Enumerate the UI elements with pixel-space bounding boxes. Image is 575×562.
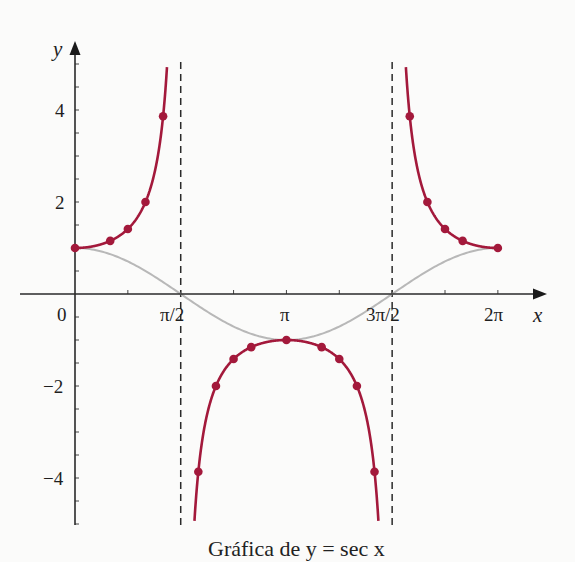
x-tick-label-pi: π [280,304,290,325]
x-axis-label: x [532,303,543,327]
x-tick-label-2pi: 2π [484,304,504,325]
data-point [441,225,450,234]
y-tick-label-2: 2 [55,192,65,213]
x-tick-label-3pi-over-2: 3π/2 [366,304,400,325]
y-tick-label-4: 4 [55,100,65,121]
secant-branch [406,67,498,248]
data-point [71,244,80,253]
x-tick-label-0: 0 [57,304,67,325]
data-point [282,336,291,345]
data-point [335,355,344,364]
data-point [494,244,503,253]
data-point [370,467,379,476]
y-tick-label-minus-2: −2 [43,376,63,397]
secant-branch [194,340,378,521]
secant-branch [75,67,167,248]
data-point [194,467,203,476]
figure-caption: Gráfica de y = sec x [208,536,385,562]
x-axis-arrow-icon [533,289,547,300]
data-point [458,237,467,246]
data-point [317,343,326,352]
data-point [212,382,221,391]
y-tick-label-minus-4: −4 [43,468,64,489]
data-point [353,382,362,391]
data-point [229,355,238,364]
data-point [141,198,150,207]
data-point [106,237,115,246]
y-axis-label: y [51,37,63,61]
y-axis-arrow-icon [70,41,81,55]
data-point [159,112,168,121]
data-point [405,112,414,121]
data-point [124,225,133,234]
data-point [247,343,256,352]
data-point [423,198,432,207]
x-tick-label-pi-over-2: π/2 [160,304,184,325]
